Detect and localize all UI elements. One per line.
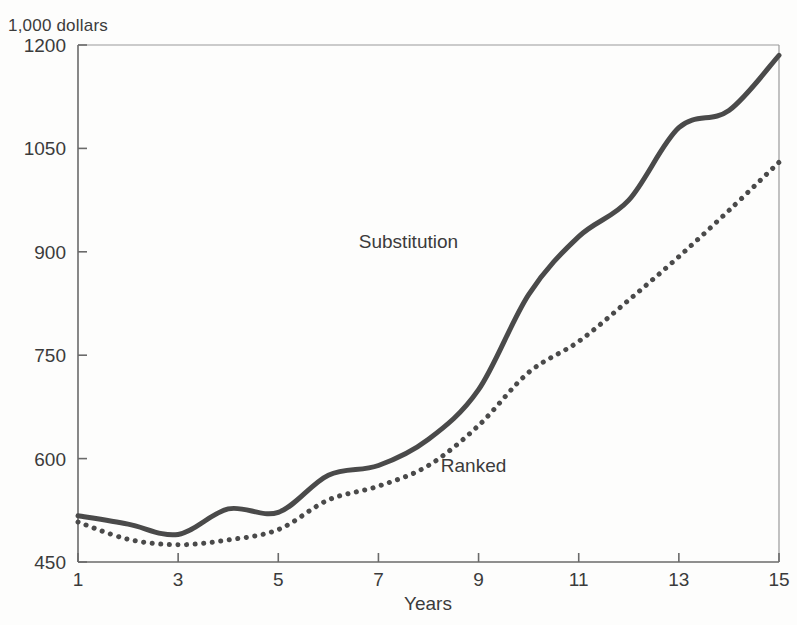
- x-tick-label: 7: [373, 569, 384, 590]
- series-label-substitution: Substitution: [359, 231, 458, 252]
- y-tick-label: 600: [34, 449, 66, 470]
- x-tick-label: 3: [173, 569, 184, 590]
- x-axis-title: Years: [404, 593, 452, 614]
- x-tick-label: 9: [473, 569, 484, 590]
- line-chart: 45060075090010501200 13579111315 Substit…: [0, 0, 797, 625]
- y-tick-label: 900: [34, 242, 66, 263]
- y-tick-label: 1050: [24, 138, 66, 159]
- y-tick-label: 1200: [24, 35, 66, 56]
- x-tick-label: 11: [569, 569, 589, 590]
- x-tick-label: 13: [668, 569, 689, 590]
- y-tick-label: 750: [34, 345, 66, 366]
- series-label-ranked: Ranked: [441, 455, 507, 476]
- series-path-group: [78, 55, 779, 544]
- series-line-ranked: [78, 162, 779, 545]
- x-tick-label: 15: [768, 569, 789, 590]
- x-tick-group: 13579111315: [73, 553, 790, 590]
- series-label-group: SubstitutionRanked: [359, 231, 506, 476]
- axes-group: [78, 45, 779, 562]
- x-tick-label: 1: [73, 569, 84, 590]
- x-tick-label: 5: [273, 569, 284, 590]
- figure-container: 1,000 dollars 45060075090010501200 13579…: [0, 0, 797, 625]
- y-tick-label: 450: [34, 552, 66, 573]
